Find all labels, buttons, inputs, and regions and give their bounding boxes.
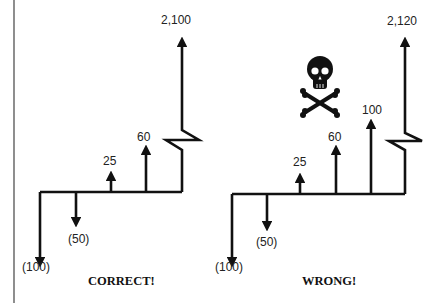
- label-inflow-25: 25: [293, 155, 307, 169]
- label-outflow-100: (100): [215, 260, 243, 274]
- label-inflow-60: 60: [137, 130, 151, 144]
- label-outflow-100: (100): [22, 260, 50, 274]
- label-inflow-25: 25: [103, 154, 117, 168]
- correct-diagram: [40, 42, 199, 262]
- label-inflow-2120: 2,120: [387, 14, 417, 28]
- caption-wrong: WRONG!: [302, 274, 356, 288]
- label-inflow-60: 60: [328, 130, 342, 144]
- cash-flow-diagrams: (100) (50) 25 60 2,100 CORRECT! (100) (5…: [0, 0, 443, 303]
- inflow-arrow-2100: [166, 42, 199, 192]
- label-inflow-100: 100: [362, 103, 382, 117]
- label-outflow-50: (50): [256, 235, 277, 249]
- label-outflow-50: (50): [68, 232, 89, 246]
- inflow-arrow-2120: [389, 42, 422, 194]
- skull-and-crossbones-icon: [300, 56, 340, 118]
- label-inflow-2100: 2,100: [161, 13, 191, 27]
- caption-correct: CORRECT!: [88, 274, 155, 288]
